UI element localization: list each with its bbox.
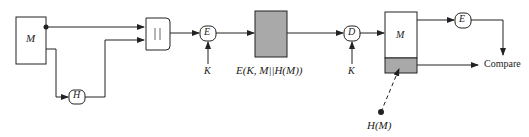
receiver-message-label: M	[396, 29, 404, 40]
ciphertext-label: E(K, M||H(M))	[236, 64, 303, 76]
receiver-hash-box	[385, 58, 417, 73]
dashed-pointer-hash	[381, 69, 399, 112]
compare-label: Compare	[484, 58, 521, 69]
arrow-m-to-hash	[46, 49, 68, 97]
encrypt-label: E	[204, 26, 210, 37]
arrow-hash-to-concat	[85, 40, 144, 97]
decrypt-label: D	[348, 26, 355, 37]
key-label-2: K	[348, 65, 355, 76]
diagram-canvas: M H E K E(K, M||H(M)) D K M E Compare H(…	[0, 0, 529, 137]
concat-box	[146, 18, 170, 50]
hash-label: H	[73, 89, 80, 100]
received-hash-label: H(M)	[367, 119, 391, 131]
sender-message-label: M	[26, 32, 35, 44]
arrow-hash-to-compare	[471, 20, 503, 55]
receiver-hash-function-label: E	[459, 13, 465, 24]
key-label-1: K	[204, 65, 211, 76]
hash-dot	[378, 109, 384, 115]
ciphertext-box	[255, 11, 287, 57]
split-dot	[44, 25, 49, 30]
